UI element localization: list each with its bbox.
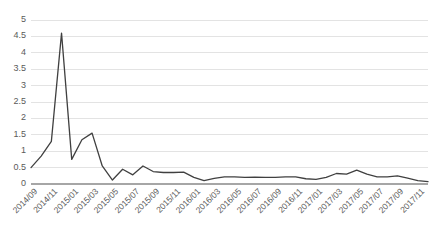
gridlines: [31, 20, 428, 184]
plot-area: [0, 0, 435, 234]
line-chart: 00.511.522.533.544.55 2014/092014/112015…: [0, 0, 435, 234]
data-series-line: [31, 33, 428, 182]
